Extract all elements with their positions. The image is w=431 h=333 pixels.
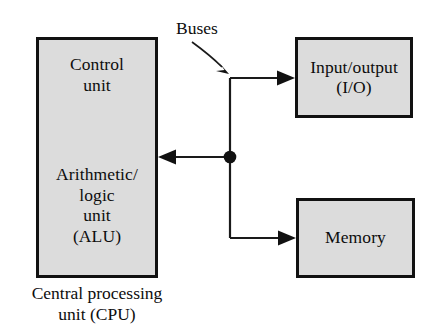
buses-annotation-label: Buses: [176, 19, 218, 38]
control-unit-label: Control unit: [39, 54, 155, 95]
cpu-caption: Central processing unit (CPU): [8, 283, 186, 324]
alu-label: Arithmetic/ logic unit (ALU): [39, 164, 155, 247]
bus-junction-dot-icon: [224, 151, 237, 164]
arrowhead-cpu-icon: [158, 150, 176, 165]
cpu-block-diagram: Control unit Arithmetic/ logic unit (ALU…: [0, 0, 431, 333]
arrowhead-buses-leader-icon: [216, 63, 229, 75]
io-block: Input/output (I/O): [295, 37, 413, 118]
arrowhead-memory-icon: [278, 231, 296, 246]
memory-label: Memory: [325, 228, 386, 248]
cpu-block: Control unit Arithmetic/ logic unit (ALU…: [36, 37, 158, 278]
buses-leader-line: [192, 42, 222, 67]
memory-block: Memory: [296, 198, 415, 278]
io-label: Input/output (I/O): [310, 58, 398, 97]
arrowhead-io-icon: [277, 71, 295, 86]
